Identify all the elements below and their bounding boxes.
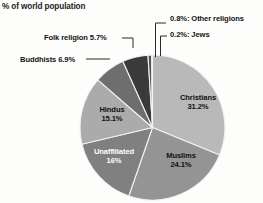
- slice-label-christians-name: Christians: [170, 93, 226, 102]
- slice-label-hindus-value: 15.1%: [88, 114, 136, 123]
- slice-label-christians: Christians 31.2%: [170, 93, 226, 112]
- leader-line-folk-religion: [122, 38, 133, 48]
- slice-label-folk-religion: Folk religion 5.7%: [44, 33, 107, 42]
- slice-label-unaffiliated: Unaffiliated 16%: [82, 147, 146, 166]
- slice-label-unaffiliated-name: Unaffiliated: [82, 147, 146, 156]
- slice-label-muslims-value: 24.1%: [155, 160, 207, 169]
- slice-label-christians-value: 31.2%: [170, 102, 226, 111]
- pie-chart-figure: % of world population 0.8%: Other religi…: [0, 0, 263, 203]
- slice-label-unaffiliated-value: 16%: [82, 156, 146, 165]
- slice-label-muslims-name: Muslims: [155, 151, 207, 160]
- slice-label-muslims: Muslims 24.1%: [155, 151, 207, 170]
- leader-line-jews: [161, 36, 168, 56]
- slice-label-jews: 0.2%: Jews: [170, 30, 210, 39]
- slice-label-other-religions: 0.8%: Other religions: [170, 14, 244, 23]
- slice-label-hindus: Hindus 15.1%: [88, 105, 136, 124]
- slice-label-buddhists: Buddhists 6.9%: [20, 55, 75, 64]
- pie-slices-group: [80, 55, 225, 200]
- slice-label-hindus-name: Hindus: [88, 105, 136, 114]
